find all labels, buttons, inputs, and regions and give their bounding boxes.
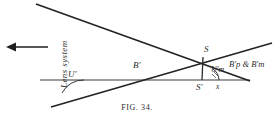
point-label-b-prime-p-and-b-prime-m: B′p & B′m bbox=[229, 60, 264, 69]
angle-label-u-prime-m: U′m bbox=[211, 66, 224, 74]
lens-direction-arrow bbox=[6, 43, 48, 52]
point-label-s: S bbox=[204, 45, 209, 54]
point-label-s-prime: S′ bbox=[196, 83, 202, 92]
lens-system-label: Lens system bbox=[60, 40, 69, 88]
point-label-b-prime: B′ bbox=[133, 61, 140, 70]
segment-s-to-s-prime bbox=[202, 57, 203, 80]
figure-optical-ray-diagram: Lens system U′ B′ S S′ U′m x B′p & B′m F… bbox=[0, 0, 274, 121]
figure-caption: FIG. 34. bbox=[0, 103, 274, 112]
distance-label-x: x bbox=[216, 83, 219, 91]
ray-lower-left-to-upper-right bbox=[51, 43, 272, 107]
angle-label-u-prime: U′ bbox=[68, 70, 76, 79]
